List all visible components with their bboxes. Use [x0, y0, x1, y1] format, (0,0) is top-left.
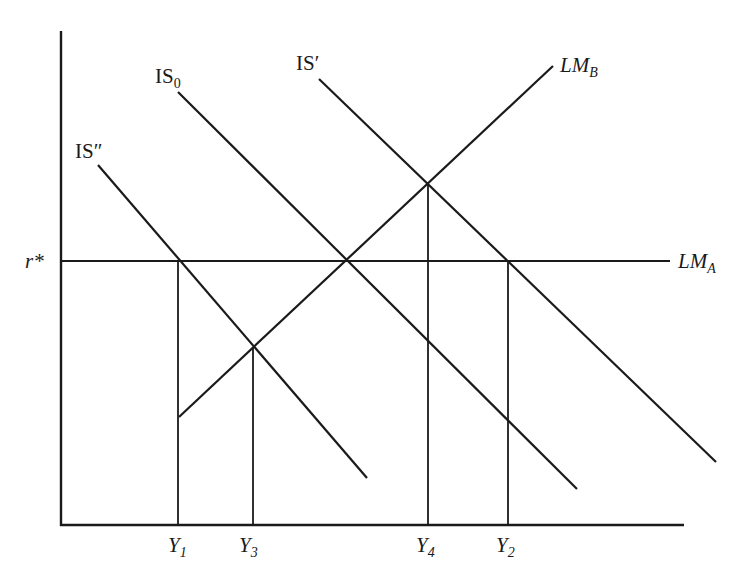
curves	[61, 66, 716, 489]
lm-b-curve	[179, 66, 553, 417]
lm-a-label: LMA	[677, 249, 716, 276]
lm-b-label: LMB	[559, 53, 598, 80]
is-double-prime-curve	[98, 165, 367, 478]
y2-label: Y2	[496, 533, 515, 560]
is0-label: IS0	[155, 64, 181, 91]
y4-label: Y4	[416, 533, 435, 560]
y3-label: Y3	[239, 533, 258, 560]
r-star-label: r*	[25, 249, 44, 273]
axes	[60, 31, 684, 526]
is0-curve	[178, 92, 577, 489]
is-prime-label: IS′	[296, 51, 319, 75]
income-drop-lines	[178, 183, 508, 525]
is-lm-diagram: IS″ IS0 IS′ LMB LMA r* Y1 Y3 Y4 Y2	[0, 0, 740, 575]
is-prime-curve	[319, 79, 716, 462]
y1-label: Y1	[168, 533, 187, 560]
is-double-prime-label: IS″	[75, 139, 102, 163]
